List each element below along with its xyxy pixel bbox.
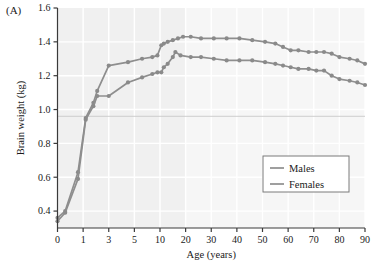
data-point-males — [166, 40, 170, 44]
y-axis-tick-label: 1.6 — [38, 2, 51, 13]
data-point-males — [250, 38, 254, 42]
x-axis-tick-label: 3 — [106, 234, 111, 245]
data-point-females — [330, 74, 334, 78]
data-point-males — [171, 38, 175, 42]
data-point-males — [212, 36, 216, 40]
x-axis-tick-label: 50 — [258, 234, 268, 245]
data-point-females — [363, 83, 367, 87]
data-point-males — [348, 57, 352, 61]
data-point-males — [273, 41, 277, 45]
x-axis-tick-label: 70 — [309, 234, 319, 245]
data-point-females — [155, 70, 159, 74]
y-axis-tick-label: 1.0 — [38, 104, 51, 115]
x-axis-tick-label: 90 — [360, 234, 370, 245]
data-point-females — [348, 79, 352, 83]
data-point-males — [107, 63, 111, 67]
panel-label: (A) — [6, 4, 22, 17]
data-point-females — [250, 58, 254, 62]
y-axis-tick-label: 0.6 — [38, 172, 51, 183]
data-point-males — [337, 55, 341, 59]
x-axis-tick-label: 60 — [283, 234, 293, 245]
data-point-females — [189, 55, 193, 59]
data-point-males — [126, 60, 130, 64]
data-point-females — [212, 57, 216, 61]
x-axis-tick-label: 1 — [81, 234, 86, 245]
data-point-males — [322, 50, 326, 54]
data-point-males — [150, 55, 154, 59]
x-axis-tick-label: 10 — [155, 234, 165, 245]
data-point-males — [95, 89, 99, 93]
plot-background-right — [186, 8, 365, 228]
data-point-females — [307, 67, 311, 71]
data-point-males — [181, 35, 185, 39]
data-point-males — [162, 41, 166, 45]
data-point-females — [63, 211, 67, 215]
y-axis-tick-label: 0.4 — [38, 205, 51, 216]
data-point-males — [307, 50, 311, 54]
data-point-males — [189, 35, 193, 39]
brain-weight-chart-figure: 0.40.60.81.01.21.41.60135102030405060708… — [0, 0, 372, 263]
data-point-females — [159, 70, 163, 74]
x-axis-tick-label: 30 — [206, 234, 216, 245]
data-point-females — [107, 94, 111, 98]
data-point-females — [273, 62, 277, 66]
data-point-males — [330, 52, 334, 56]
y-axis-tick-label: 0.8 — [38, 138, 51, 149]
data-point-females — [95, 94, 99, 98]
y-axis-tick-label: 1.2 — [38, 70, 51, 81]
data-point-males — [140, 57, 144, 61]
data-point-males — [296, 48, 300, 52]
data-point-males — [289, 48, 293, 52]
data-point-females — [296, 67, 300, 71]
data-point-males — [155, 53, 159, 57]
data-point-males — [199, 36, 203, 40]
data-point-females — [150, 72, 154, 76]
chart-svg: 0.40.60.81.01.21.41.60135102030405060708… — [0, 0, 372, 263]
x-axis-tick-label: 5 — [132, 234, 137, 245]
data-point-females — [281, 63, 285, 67]
data-point-females — [178, 53, 182, 57]
data-point-females — [237, 58, 241, 62]
x-axis-tick-label: 80 — [334, 234, 344, 245]
data-point-females — [84, 118, 88, 122]
data-point-females — [171, 55, 175, 59]
data-point-females — [76, 177, 80, 181]
x-axis-title: Age (years) — [187, 249, 237, 261]
data-point-males — [363, 62, 367, 66]
data-point-females — [355, 80, 359, 84]
legend-label-females: Females — [289, 179, 324, 190]
data-point-females — [162, 65, 166, 69]
data-point-females — [173, 50, 177, 54]
data-point-females — [314, 69, 318, 73]
data-point-males — [176, 36, 180, 40]
data-point-females — [91, 104, 95, 108]
data-point-males — [314, 50, 318, 54]
data-point-females — [166, 62, 170, 66]
data-point-males — [225, 36, 229, 40]
y-axis-title: Brain weight (kg) — [15, 80, 27, 155]
x-axis-tick-label: 40 — [232, 234, 242, 245]
data-point-males — [263, 40, 267, 44]
legend-label-males: Males — [289, 163, 315, 174]
data-point-females — [140, 75, 144, 79]
data-point-females — [199, 55, 203, 59]
data-point-females — [337, 77, 341, 81]
data-point-females — [225, 58, 229, 62]
x-axis-tick-label: 20 — [181, 234, 191, 245]
data-point-females — [263, 60, 267, 64]
data-point-males — [281, 45, 285, 49]
x-axis-tick-label: 0 — [55, 234, 60, 245]
data-point-females — [322, 69, 326, 73]
data-point-females — [289, 65, 293, 69]
y-axis-tick-label: 1.4 — [38, 36, 51, 47]
data-point-males — [237, 36, 241, 40]
data-point-males — [355, 58, 359, 62]
data-point-females — [126, 80, 130, 84]
